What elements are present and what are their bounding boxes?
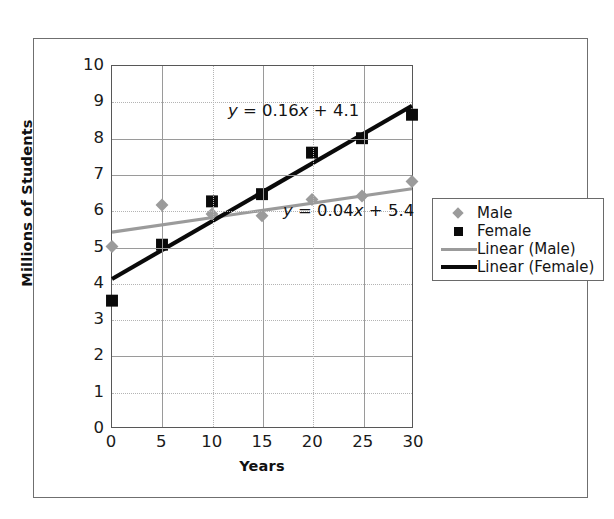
y-axis-tick-label: 10 <box>60 57 104 74</box>
legend-label-female: Female <box>477 224 531 239</box>
x-axis-tick-label: 30 <box>390 434 436 451</box>
gridline-horizontal <box>112 248 412 249</box>
y-axis-tick-label: 1 <box>60 384 104 401</box>
x-axis-tick-label: 0 <box>88 434 134 451</box>
black-line-icon <box>441 259 477 275</box>
eq-male-coef: = 0.04 <box>293 201 354 220</box>
x-axis-tick-label: 5 <box>138 434 184 451</box>
data-point-female <box>306 147 318 159</box>
legend-item-linear-female[interactable]: Linear (Female) <box>441 258 597 276</box>
y-axis-tick-label: 8 <box>60 130 104 147</box>
eq-male-rest: + 5.4 <box>364 201 415 220</box>
gridline-horizontal <box>112 393 412 394</box>
trendline-equation-male: y = 0.04x + 5.4 <box>283 203 414 220</box>
y-axis-tick-label: 3 <box>60 311 104 328</box>
eq-female-coef: = 0.16 <box>238 101 299 120</box>
eq-female-x: x <box>299 101 309 120</box>
y-axis-tick-label: 2 <box>60 347 104 364</box>
y-axis-title: Millions of Students <box>19 88 35 318</box>
legend-label-linear-male: Linear (Male) <box>477 242 576 257</box>
y-axis-tick-label: 7 <box>60 166 104 183</box>
legend-label-linear-female: Linear (Female) <box>477 260 594 275</box>
diamond-marker-icon <box>441 205 477 221</box>
y-axis-tick-label: 6 <box>60 202 104 219</box>
x-axis-tick-labels: 051015202530 <box>111 434 413 460</box>
legend-item-linear-male[interactable]: Linear (Male) <box>441 240 597 258</box>
eq-male-x: x <box>354 201 364 220</box>
x-axis-tick-label: 10 <box>189 434 235 451</box>
legend-item-male[interactable]: Male <box>441 204 597 222</box>
gray-line-icon <box>441 241 477 257</box>
x-axis-tick-label: 15 <box>239 434 285 451</box>
gridline-vertical <box>364 66 365 427</box>
data-point-female <box>406 109 418 121</box>
gridline-vertical <box>313 66 314 427</box>
legend-label-male: Male <box>477 206 513 221</box>
gridline-vertical <box>213 66 214 427</box>
series-layer <box>112 66 412 427</box>
data-point-female <box>106 295 118 307</box>
data-point-female <box>256 188 268 200</box>
legend-item-female[interactable]: Female <box>441 222 597 240</box>
gridline-horizontal <box>112 284 412 285</box>
eq-female-rest: + 4.1 <box>309 101 360 120</box>
chart-legend: Male Female Linear (Male) Linear (Female… <box>432 198 604 281</box>
gridline-horizontal <box>112 320 412 321</box>
trendline-equation-female: y = 0.16x + 4.1 <box>228 103 359 120</box>
gridline-vertical <box>162 66 163 427</box>
y-axis-tick-label: 5 <box>60 239 104 256</box>
chart-figure: 109876543210 051015202530 Millions of St… <box>0 0 614 519</box>
gridline-vertical <box>263 66 264 427</box>
y-axis-tick-label: 4 <box>60 275 104 292</box>
x-axis-tick-label: 25 <box>340 434 386 451</box>
x-axis-title: Years <box>111 458 413 474</box>
y-axis-tick-label: 9 <box>60 93 104 110</box>
x-axis-tick-label: 20 <box>289 434 335 451</box>
gridline-horizontal <box>112 175 412 176</box>
eq-male-y: y <box>283 201 293 220</box>
eq-female-y: y <box>228 101 238 120</box>
gridline-horizontal <box>112 356 412 357</box>
y-axis-tick-labels: 109876543210 <box>58 65 104 428</box>
gridline-horizontal <box>112 139 412 140</box>
square-marker-icon <box>441 223 477 239</box>
